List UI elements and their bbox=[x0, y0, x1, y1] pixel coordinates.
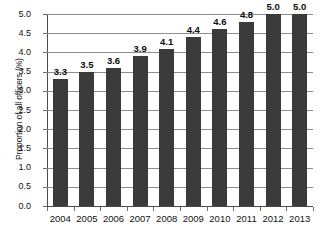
bar bbox=[106, 68, 121, 206]
x-tick-mark bbox=[100, 207, 101, 211]
y-tick-label: 1.5 bbox=[0, 144, 31, 153]
y-tick-label: 2.0 bbox=[0, 125, 31, 134]
y-tick-label: 5.0 bbox=[0, 10, 31, 19]
x-tick-mark bbox=[313, 207, 314, 211]
y-tick-label: 0.0 bbox=[0, 202, 31, 211]
y-tick-label: 4.5 bbox=[0, 29, 31, 38]
x-tick-mark bbox=[286, 207, 287, 211]
bar-value-label: 4.1 bbox=[151, 37, 183, 47]
bar bbox=[159, 49, 174, 206]
bar bbox=[79, 72, 94, 206]
y-tick-label: 1.0 bbox=[0, 163, 31, 172]
bar bbox=[53, 79, 68, 206]
bar-chart: Proportion of all officers (%) 0.00.51.0… bbox=[0, 0, 322, 235]
bar-value-label: 5.0 bbox=[284, 2, 316, 12]
bar-value-label: 3.6 bbox=[98, 56, 130, 66]
x-category-label: 2013 bbox=[284, 214, 316, 224]
x-tick-mark bbox=[74, 207, 75, 211]
y-tick-label: 0.5 bbox=[0, 182, 31, 191]
bar bbox=[292, 14, 307, 206]
bar bbox=[186, 37, 201, 206]
y-tick-label: 2.5 bbox=[0, 106, 31, 115]
plot-area: 0.00.51.01.52.02.53.03.54.04.55.0 3.33.5… bbox=[47, 14, 313, 206]
y-tick-label: 3.0 bbox=[0, 86, 31, 95]
x-tick-mark bbox=[207, 207, 208, 211]
y-tick-label: 3.5 bbox=[0, 67, 31, 76]
x-tick-mark bbox=[180, 207, 181, 211]
x-tick-mark bbox=[233, 207, 234, 211]
bar bbox=[266, 14, 281, 206]
x-tick-mark bbox=[47, 207, 48, 211]
y-tick-label: 4.0 bbox=[0, 48, 31, 57]
x-tick-mark bbox=[260, 207, 261, 211]
bar bbox=[239, 22, 254, 206]
x-tick-mark bbox=[127, 207, 128, 211]
x-tick-mark bbox=[153, 207, 154, 211]
bar bbox=[133, 56, 148, 206]
bar bbox=[212, 29, 227, 206]
